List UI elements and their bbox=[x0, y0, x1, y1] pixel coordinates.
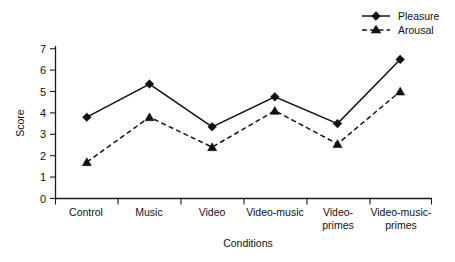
data-point-arousal-1 bbox=[145, 113, 154, 121]
triangle-marker-icon bbox=[371, 25, 381, 33]
legend-entry-arousal[interactable]: Arousal bbox=[362, 24, 434, 36]
data-point-pleasure-0 bbox=[83, 113, 92, 122]
legend-label-pleasure: Pleasure bbox=[398, 10, 440, 22]
x-category-label: Music bbox=[135, 206, 162, 218]
y-tick-label: 2 bbox=[40, 150, 46, 162]
x-axis-title: Conditions bbox=[223, 237, 273, 249]
y-axis-tick-labels: 0 1 2 3 4 5 6 7 bbox=[40, 43, 46, 205]
y-tick-label: 0 bbox=[40, 193, 46, 205]
chart-canvas: 0 1 2 3 4 5 6 7 Score Control Music Vide… bbox=[0, 0, 455, 262]
x-category-label: Video-music- bbox=[370, 206, 432, 218]
x-category-label-line2: primes bbox=[385, 219, 417, 231]
line-chart-figure: 0 1 2 3 4 5 6 7 Score Control Music Vide… bbox=[0, 0, 455, 262]
chart-legend: Pleasure Arousal bbox=[362, 10, 440, 36]
data-point-arousal-3 bbox=[270, 106, 279, 114]
x-axis-ticks bbox=[56, 199, 432, 205]
data-point-pleasure-1 bbox=[145, 80, 154, 89]
y-axis-ticks bbox=[50, 49, 56, 199]
y-tick-label: 3 bbox=[40, 128, 46, 140]
legend-entry-pleasure[interactable]: Pleasure bbox=[362, 10, 440, 22]
data-point-arousal-2 bbox=[208, 143, 217, 151]
y-tick-label: 7 bbox=[40, 43, 46, 55]
y-tick-label: 4 bbox=[40, 107, 46, 119]
y-tick-label: 6 bbox=[40, 64, 46, 76]
x-category-label: Video-music bbox=[246, 206, 304, 218]
x-category-label: Video- bbox=[323, 206, 354, 218]
series-line-pleasure bbox=[87, 59, 400, 126]
x-axis-category-labels: Control Music Video Video-music Video- p… bbox=[69, 206, 432, 231]
y-axis-title: Score bbox=[14, 109, 26, 137]
x-category-label-line2: primes bbox=[322, 219, 354, 231]
legend-label-arousal: Arousal bbox=[398, 24, 434, 36]
data-point-arousal-4 bbox=[333, 140, 342, 148]
x-category-label: Video bbox=[199, 206, 226, 218]
data-point-arousal-5 bbox=[396, 87, 405, 95]
data-point-pleasure-3 bbox=[271, 93, 280, 102]
series-line-arousal bbox=[87, 92, 400, 163]
y-tick-label: 5 bbox=[40, 86, 46, 98]
x-category-label: Control bbox=[69, 206, 103, 218]
series-markers-arousal bbox=[82, 87, 404, 165]
y-tick-label: 1 bbox=[40, 171, 46, 183]
diamond-marker-icon bbox=[372, 12, 381, 21]
data-point-pleasure-2 bbox=[208, 123, 217, 132]
